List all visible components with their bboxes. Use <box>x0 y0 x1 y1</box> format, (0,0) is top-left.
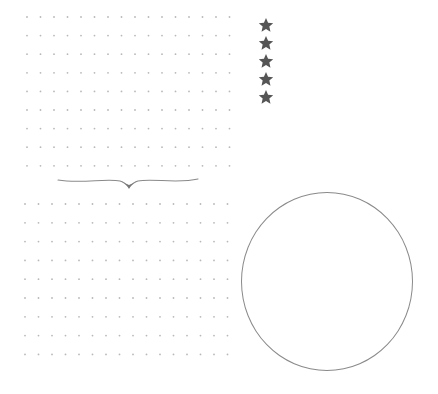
grid-dot <box>213 260 215 262</box>
grid-dot <box>159 260 161 262</box>
grid-dot <box>51 297 53 299</box>
grid-dot <box>105 278 107 280</box>
grid-dot <box>51 203 53 205</box>
grid-dot <box>186 260 188 262</box>
grid-dot <box>92 260 94 262</box>
grid-dot <box>146 297 148 299</box>
grid-dot <box>159 354 161 356</box>
grid-dot <box>213 354 215 356</box>
grid-dot <box>92 354 94 356</box>
grid-dot <box>51 260 53 262</box>
grid-dot <box>105 316 107 318</box>
grid-dot <box>173 222 175 224</box>
grid-dot <box>65 222 67 224</box>
grid-dot <box>38 335 40 337</box>
grid-dot <box>105 354 107 356</box>
grid-dot <box>119 203 121 205</box>
grid-dot <box>227 354 229 356</box>
star-icon <box>258 52 274 70</box>
grid-dot <box>186 222 188 224</box>
circle-frame <box>241 192 413 371</box>
grid-dot <box>159 297 161 299</box>
grid-dot <box>92 241 94 243</box>
grid-dot <box>132 222 134 224</box>
grid-dot <box>132 278 134 280</box>
grid-dot <box>159 203 161 205</box>
grid-dot <box>227 222 229 224</box>
star-icon <box>258 88 274 106</box>
grid-dot <box>132 297 134 299</box>
grid-dot <box>173 335 175 337</box>
grid-dot <box>78 354 80 356</box>
grid-dot <box>65 241 67 243</box>
grid-dot <box>92 203 94 205</box>
grid-dot <box>146 316 148 318</box>
grid-dot <box>200 203 202 205</box>
grid-dot <box>24 260 26 262</box>
grid-dot <box>51 354 53 356</box>
grid-dot <box>65 260 67 262</box>
grid-dot <box>119 260 121 262</box>
grid-dot <box>51 316 53 318</box>
grid-dot <box>200 222 202 224</box>
grid-dot <box>132 203 134 205</box>
grid-dot <box>38 203 40 205</box>
grid-dot <box>213 335 215 337</box>
grid-dot <box>186 354 188 356</box>
grid-dot <box>213 297 215 299</box>
grid-dot <box>186 335 188 337</box>
grid-dot <box>159 222 161 224</box>
grid-dot <box>227 203 229 205</box>
grid-dot <box>24 354 26 356</box>
grid-dot <box>105 203 107 205</box>
grid-dot <box>173 260 175 262</box>
grid-dot <box>227 297 229 299</box>
grid-dot <box>173 241 175 243</box>
grid-dot <box>78 222 80 224</box>
grid-dot <box>78 203 80 205</box>
star-icon <box>258 16 274 34</box>
grid-dot <box>105 260 107 262</box>
grid-dot <box>65 297 67 299</box>
grid-dot <box>119 241 121 243</box>
grid-dot <box>132 241 134 243</box>
grid-dot <box>78 278 80 280</box>
grid-dot <box>146 260 148 262</box>
grid-dot <box>173 297 175 299</box>
grid-dot <box>119 335 121 337</box>
grid-dot <box>24 241 26 243</box>
grid-dot <box>132 354 134 356</box>
grid-dot <box>227 241 229 243</box>
grid-dot <box>132 316 134 318</box>
grid-dot <box>173 354 175 356</box>
grid-dot <box>119 297 121 299</box>
grid-dot <box>227 260 229 262</box>
grid-dot <box>159 241 161 243</box>
grid-dot <box>173 203 175 205</box>
grid-dot <box>146 222 148 224</box>
grid-dot <box>213 222 215 224</box>
grid-dot <box>119 316 121 318</box>
star-icon <box>258 34 274 52</box>
grid-dot <box>65 203 67 205</box>
grid-dot <box>227 278 229 280</box>
grid-dot <box>159 316 161 318</box>
grid-dot <box>38 297 40 299</box>
grid-dot <box>65 316 67 318</box>
grid-dot <box>119 222 121 224</box>
grid-dot <box>24 297 26 299</box>
grid-dot <box>24 335 26 337</box>
grid-dot <box>200 241 202 243</box>
grid-dot <box>78 316 80 318</box>
bottom-dot-grid <box>0 0 250 394</box>
grid-dot <box>51 335 53 337</box>
grid-dot <box>173 278 175 280</box>
grid-dot <box>24 203 26 205</box>
grid-dot <box>213 203 215 205</box>
grid-dot <box>200 260 202 262</box>
grid-dot <box>200 278 202 280</box>
grid-dot <box>186 203 188 205</box>
grid-dot <box>51 278 53 280</box>
grid-dot <box>78 335 80 337</box>
grid-dot <box>146 354 148 356</box>
